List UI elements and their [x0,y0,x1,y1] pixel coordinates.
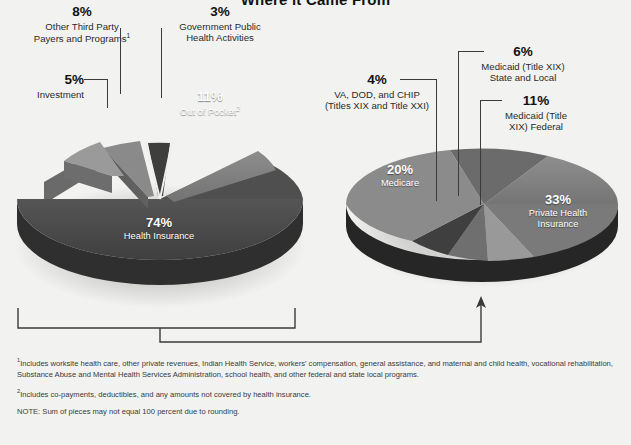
callout-medicaid-federal: 11% Medicaid (Title XIX) Federal [466,93,606,133]
footnote-2: 2Includes co-payments, deductibles, and … [17,387,617,400]
label-desc: Out of Pocket2 [162,105,258,118]
callout-va-dod-chip: 4% VA, DOD, and CHIP (Titles XIX and Tit… [300,72,454,112]
leader-line-other-third-party [120,28,121,94]
callout-desc: Medicaid (Title XIX) State and Local [447,61,599,84]
left-pie-label-out-of-pocket: 11% Out of Pocket2 [162,89,258,118]
callout-percent: 8% [8,4,156,20]
footnote-1-text: Includes worksite health care, other pri… [17,359,613,379]
left-pie-svg [8,96,308,311]
footnote-1: 1Includes worksite health care, other pr… [17,356,617,380]
leader-line-medicaid-state-v [458,51,459,196]
infographic-canvas: Where it Came From [0,0,631,445]
leader-line-medicaid-federal-h [480,100,502,101]
leader-line-medicaid-federal-v [480,100,481,205]
leader-line-investment-v [107,79,108,108]
callout-government-public-health: 3% Government Public Health Activities [140,4,300,44]
label-percent: 74% [100,215,218,231]
footnotes: 1Includes worksite health care, other pr… [17,356,617,417]
label-percent: 20% [358,162,442,178]
bracket-connector [0,288,631,350]
left-pie-label-health-insurance: 74% Health Insurance [100,215,218,242]
right-pie-label-medicare: 20% Medicare [358,162,442,189]
label-desc: Medicare [358,178,442,189]
label-percent: 11% [162,89,258,105]
leader-line-va-dod-chip-h [400,79,437,80]
callout-percent: 3% [140,4,300,20]
callout-investment: 5% Investment [2,72,84,100]
footnote-note: NOTE: Sum of pieces may not equal 100 pe… [17,406,617,417]
footnote-2-text: Includes co-payments, deductibles, and a… [20,389,311,398]
label-desc: Private Health Insurance [512,208,604,230]
label-desc: Health Insurance [100,231,218,242]
leader-line-investment-h [84,79,108,80]
callout-desc: Medicaid (Title XIX) Federal [466,110,606,133]
right-pie-label-private-health-insurance: 33% Private Health Insurance [512,192,604,230]
label-percent: 33% [512,192,604,208]
callout-desc: Investment [2,89,84,100]
leader-line-government-public-health [161,28,162,98]
callout-desc: Other Third Party Payers and Programs1 [8,21,156,45]
callout-desc: VA, DOD, and CHIP (Titles XIX and Title … [300,89,454,112]
leader-line-va-dod-chip-v [436,79,437,201]
left-pie-chart [8,96,308,311]
callout-medicaid-state-local: 6% Medicaid (Title XIX) State and Local [447,44,599,84]
leader-line-medicaid-state-h [458,51,484,52]
callout-other-third-party: 8% Other Third Party Payers and Programs… [8,4,156,45]
callout-desc: Government Public Health Activities [140,21,300,44]
callout-percent: 5% [2,72,84,88]
